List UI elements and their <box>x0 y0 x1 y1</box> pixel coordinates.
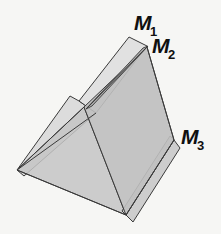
label-m2-subscript: 2 <box>168 47 175 62</box>
label-m3-subscript: 3 <box>197 138 204 153</box>
manifold-diagram-canvas: M 1 M 2 M 3 <box>0 0 221 234</box>
manifold-diagram-figure: M 1 M 2 M 3 <box>0 0 221 234</box>
